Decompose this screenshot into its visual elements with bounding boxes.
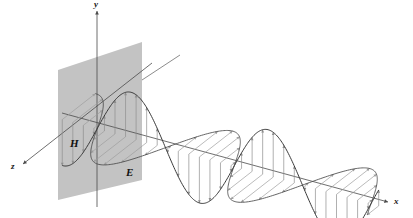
field-vector [210, 137, 240, 160]
axis-label-x: x [394, 197, 399, 206]
field-label-e: E [126, 167, 133, 178]
field-vector [259, 180, 284, 200]
em-wave-figure: y x z E H [0, 0, 413, 218]
field-vector [347, 174, 376, 197]
field-vector [231, 174, 263, 199]
axis-arrow-y [95, 11, 99, 15]
plane-edge-guide [142, 55, 180, 80]
field-vector [241, 177, 273, 202]
field-vector [337, 168, 370, 194]
axis-label-y: y [94, 0, 98, 9]
field-label-h: H [70, 138, 79, 149]
axis-label-z: z [11, 162, 15, 171]
axis-arrow-x [384, 199, 388, 203]
em-wave-canvas [0, 0, 413, 218]
